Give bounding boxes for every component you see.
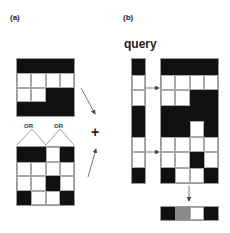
connector-overlay bbox=[0, 0, 230, 233]
arrow-bottom-to-plus-icon bbox=[88, 149, 96, 177]
arrow-top-to-plus-icon bbox=[81, 88, 95, 114]
or-branch-lines bbox=[17, 129, 74, 145]
